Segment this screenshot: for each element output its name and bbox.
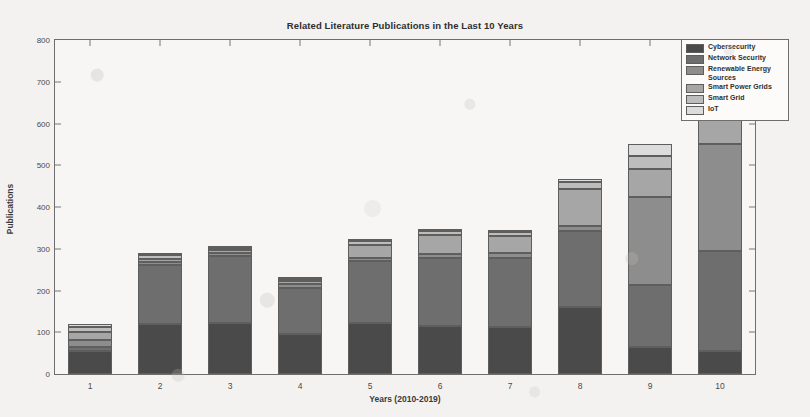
legend-item[interactable]: Smart Power Grids [686,83,784,93]
bar-segment[interactable] [558,307,602,374]
y-tick-label: 100 [37,328,50,337]
bar-segment[interactable] [138,324,182,374]
bar-segment[interactable] [488,230,532,232]
x-tick-mark [90,40,91,46]
bar-segment[interactable] [348,261,392,323]
bar-segment[interactable] [348,241,392,244]
bar-segment[interactable] [138,253,182,255]
y-axis-label: Publications [5,183,15,234]
bar-segment[interactable] [628,144,672,156]
bar-segment[interactable] [68,332,112,340]
bar-segment[interactable] [418,258,462,326]
bar-segment[interactable] [418,254,462,258]
bar-segment[interactable] [418,231,462,235]
bar-segment[interactable] [348,258,392,261]
bar-segment[interactable] [488,253,532,257]
bar-segment[interactable] [488,236,532,254]
bar-segment[interactable] [68,324,112,327]
y-tick-mark [749,290,755,291]
bar-segment[interactable] [698,251,742,351]
x-tick-label: 9 [648,381,653,391]
bar-segment[interactable] [278,334,322,374]
bar-segment[interactable] [138,255,182,258]
bar-segment[interactable] [348,239,392,241]
bar-segment[interactable] [278,277,322,279]
bar-group[interactable] [628,144,672,374]
x-tick-mark [580,40,581,46]
bar-segment[interactable] [558,226,602,231]
bar-segment[interactable] [488,327,532,374]
plot-area: 0100200300400500600700800 12345678910 [54,39,756,375]
bar-segment[interactable] [68,327,112,332]
bar-segment[interactable] [488,258,532,328]
legend-item[interactable]: Cybersecurity [686,43,784,53]
bar-segment[interactable] [278,281,322,284]
bar-segment[interactable] [208,323,252,374]
y-tick-mark [749,123,755,124]
legend-label: Cybersecurity [708,43,755,52]
bar-group[interactable] [558,179,602,374]
y-tick-mark [55,81,61,82]
bar-segment[interactable] [138,262,182,265]
bar-segment[interactable] [68,351,112,374]
x-tick-label: 10 [715,381,724,391]
legend-item[interactable]: Smart Grid [686,94,784,104]
bar-segment[interactable] [628,285,672,347]
bar-segment[interactable] [138,259,182,262]
chart-title: Related Literature Publications in the L… [54,20,756,31]
bar-segment[interactable] [558,189,602,227]
bar-group[interactable] [68,324,112,374]
y-tick-mark [749,332,755,333]
bar-segment[interactable] [208,250,252,253]
y-tick-mark [55,248,61,249]
bar-segment[interactable] [208,246,252,248]
bar-segment[interactable] [558,179,602,182]
x-tick-mark [160,40,161,46]
bar-segment[interactable] [488,232,532,236]
x-tick-label: 6 [438,381,443,391]
y-tick-mark [749,248,755,249]
legend-item[interactable]: Renewable Energy Sources [686,65,784,82]
y-tick-mark [55,123,61,124]
x-tick-label: 1 [88,381,93,391]
bar-segment[interactable] [208,256,252,323]
bar-segment[interactable] [208,248,252,250]
legend-label: Smart Power Grids [708,83,772,92]
bar-segment[interactable] [418,229,462,231]
bar-group[interactable] [208,247,252,374]
bar-segment[interactable] [208,253,252,256]
bar-segment[interactable] [628,197,672,285]
bar-segment[interactable] [628,156,672,169]
bar-segment[interactable] [278,288,322,334]
bar-group[interactable] [348,239,392,374]
bar-segment[interactable] [348,323,392,374]
bar-segment[interactable] [278,279,322,281]
y-tick-label: 800 [37,36,50,45]
bar-segment[interactable] [68,340,112,347]
bar-group[interactable] [278,278,322,374]
bar-segment[interactable] [698,144,742,250]
x-tick-mark [440,40,441,46]
legend-swatch [686,55,704,64]
legend-item[interactable]: IoT [686,105,784,115]
bar-segment[interactable] [278,284,322,288]
y-tick-label: 200 [37,286,50,295]
y-tick-mark [55,332,61,333]
bar-group[interactable] [488,231,532,374]
bar-segment[interactable] [418,235,462,254]
legend-item[interactable]: Network Security [686,54,784,64]
bar-segment[interactable] [418,326,462,374]
bar-segment[interactable] [698,351,742,374]
bar-group[interactable] [418,230,462,374]
bar-segment[interactable] [558,231,602,307]
bar-segment[interactable] [558,182,602,188]
y-tick-mark [55,290,61,291]
bar-segment[interactable] [138,265,182,323]
bar-segment[interactable] [628,347,672,374]
bar-group[interactable] [138,253,182,374]
y-tick-mark [749,165,755,166]
x-tick-label: 8 [578,381,583,391]
bar-segment[interactable] [628,169,672,197]
bar-segment[interactable] [68,347,112,351]
bar-segment[interactable] [348,245,392,258]
